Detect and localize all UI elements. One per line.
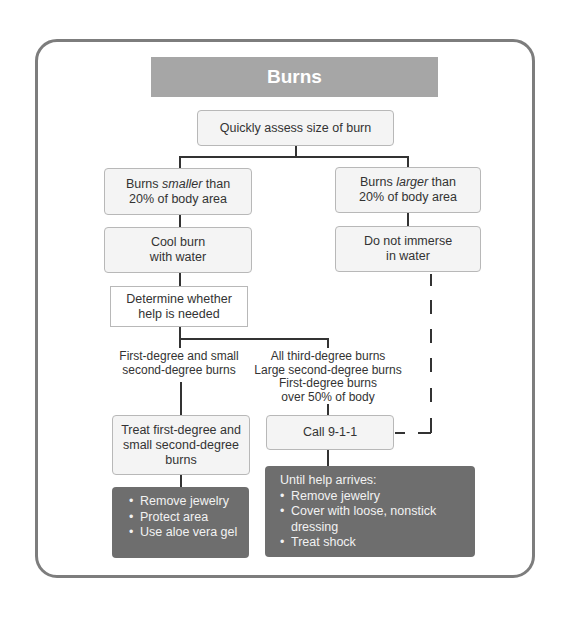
treat-minor-node: Treat first-degree and small second-degr… [112,415,250,475]
cool-line2: with water [150,250,206,265]
major-label-line3: First-degree burns [246,377,410,391]
connector [327,338,329,348]
connector [179,339,181,348]
connector [179,338,328,340]
dashed-connector [430,329,432,343]
connector [179,156,409,158]
treat-line1: Treat first-degree and [121,423,241,438]
no-immerse-line2: in water [386,249,430,264]
dashed-connector [430,358,432,372]
minor-care-list: Remove jewelry Protect area Use aloe ver… [129,494,249,541]
burns-smaller-line2: 20% of body area [129,192,227,207]
dashed-connector [430,300,432,314]
list-item: Remove jewelry [280,489,455,505]
cool-burn-node: Cool burn with water [104,227,252,273]
connector [407,213,409,226]
determine-help-node: Determine whether help is needed [110,286,248,327]
connector [180,382,182,415]
treat-line2: small second-degree [123,438,239,453]
connector [179,156,181,168]
minor-label-line2: second-degree burns [93,364,265,378]
connector [327,404,329,415]
major-care-list: Remove jewelry Cover with loose, nonstic… [280,489,455,551]
major-care-heading: Until help arrives: [280,473,475,489]
call-text: Call 9-1-1 [303,425,357,440]
burns-larger-line1: Burns larger than [360,175,456,190]
connector [180,475,182,487]
title-text: Burns [267,66,322,88]
list-item: Remove jewelry [129,494,249,510]
connector [327,450,329,466]
connector [179,273,181,286]
list-item: Treat shock [280,535,455,551]
no-immerse-line1: Do not immerse [364,234,452,249]
dashed-connector [430,388,432,402]
minor-label-line1: First-degree and small [93,350,265,364]
burns-smaller-line1: Burns smaller than [126,177,230,192]
list-item: Cover with loose, nonstick dressing [280,504,455,535]
dashed-connector [395,432,405,434]
determine-line2: help is needed [138,307,219,322]
major-label-line1: All third-degree burns [246,350,410,364]
treat-line3: burns [165,453,196,468]
connector [407,156,409,167]
call-911-node: Call 9-1-1 [266,415,394,450]
connector [179,215,181,227]
minor-care-box: Remove jewelry Protect area Use aloe ver… [112,487,249,558]
diagram-title: Burns [151,57,438,97]
cool-line1: Cool burn [151,235,205,250]
burns-larger-node: Burns larger than 20% of body area [335,167,481,213]
major-care-box: Until help arrives: Remove jewelry Cover… [265,466,475,557]
list-item: Protect area [129,510,249,526]
assess-size-node: Quickly assess size of burn [197,110,394,146]
list-item: Use aloe vera gel [129,525,249,541]
burns-larger-line2: 20% of body area [359,190,457,205]
major-label-line2: Large second-degree burns [246,364,410,378]
major-label-line4: over 50% of body [246,391,410,405]
dashed-connector [430,274,432,286]
major-burns-label: All third-degree burns Large second-degr… [246,350,410,404]
do-not-immerse-node: Do not immerse in water [335,226,481,272]
burns-smaller-node: Burns smaller than 20% of body area [104,168,252,215]
minor-burns-label: First-degree and small second-degree bur… [93,350,265,377]
dashed-connector [430,418,432,433]
determine-line1: Determine whether [126,292,232,307]
assess-text: Quickly assess size of burn [220,121,371,136]
dashed-connector [418,432,431,434]
